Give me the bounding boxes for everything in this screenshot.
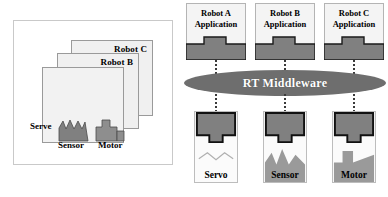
app-box-robot-c[interactable]: Robot C Application — [324, 3, 384, 60]
app-box-label-c: Robot C Application — [325, 8, 383, 29]
app-box-label-b-line2: Application — [256, 19, 314, 30]
diagram-canvas: Robot C Robot B Serve Sensor Motor Robot… — [0, 0, 388, 197]
connector-line-motor — [353, 94, 355, 112]
app-box-label-c-line2: Application — [325, 19, 383, 30]
rt-middleware-bus[interactable]: RT Middleware — [184, 70, 386, 96]
servo-waveform-icon — [199, 153, 233, 160]
stack-card-robot-a[interactable] — [42, 67, 124, 143]
app-box-label-a-line2: Application — [187, 19, 245, 30]
stack-card-label-b: Robot B — [101, 57, 133, 67]
app-box-label-a-line1: Robot A — [187, 8, 245, 19]
device-label-servo: Servo — [195, 170, 237, 180]
component-connector-icon-a — [186, 34, 246, 60]
device-label-sensor: Sensor — [264, 170, 306, 180]
component-connector-icon-servo — [197, 113, 235, 142]
device-box-servo[interactable]: Servo — [194, 111, 238, 183]
connector-line-app-c — [353, 60, 355, 74]
right-panel-middleware: Robot A Application Robot B Application … — [182, 0, 388, 197]
left-label-servo: Serve — [30, 121, 52, 131]
app-box-label-c-line1: Robot C — [325, 8, 383, 19]
rt-middleware-label: RT Middleware — [243, 76, 328, 91]
app-box-robot-a[interactable]: Robot A Application — [186, 3, 246, 60]
component-connector-icon-motor — [335, 113, 373, 142]
app-box-label-b-line1: Robot B — [256, 8, 314, 19]
device-box-sensor[interactable]: Sensor — [263, 111, 307, 183]
device-label-motor: Motor — [333, 170, 375, 180]
connector-line-app-a — [215, 60, 217, 74]
app-box-robot-b[interactable]: Robot B Application — [255, 3, 315, 60]
connector-line-servo — [215, 94, 217, 112]
connector-line-sensor — [284, 94, 286, 112]
app-box-label-b: Robot B Application — [256, 8, 314, 29]
left-panel-monolithic: Robot C Robot B Serve Sensor Motor — [13, 20, 173, 165]
left-label-sensor: Sensor — [58, 140, 84, 150]
component-connector-icon-b — [255, 34, 315, 60]
left-label-motor: Motor — [98, 140, 123, 150]
component-connector-icon-c — [324, 34, 384, 60]
app-box-label-a: Robot A Application — [187, 8, 245, 29]
device-box-motor[interactable]: Motor — [332, 111, 376, 183]
component-connector-icon-sensor — [266, 113, 304, 142]
